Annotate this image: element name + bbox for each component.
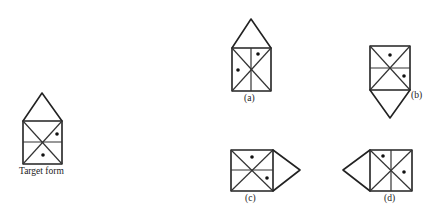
option-b-label: (b) (411, 90, 422, 100)
figure-canvas (0, 0, 441, 214)
dot-icon (402, 170, 406, 174)
dot-icon (250, 155, 254, 159)
triangle-up-icon (23, 93, 62, 121)
dot-icon (41, 153, 45, 157)
option-d-shape[interactable] (343, 150, 412, 191)
target-form-label: Target form (19, 166, 64, 176)
triangle-up-icon (232, 19, 271, 48)
triangle-left-icon (343, 150, 370, 191)
dot-icon (236, 68, 240, 72)
dot-icon (388, 53, 392, 57)
option-c-shape[interactable] (231, 150, 300, 191)
dot-icon (55, 132, 59, 136)
option-b-shape[interactable] (370, 46, 410, 118)
dot-icon (265, 176, 269, 180)
option-a-shape[interactable] (232, 19, 271, 91)
dot-icon (381, 154, 385, 158)
dot-icon (256, 52, 260, 56)
triangle-down-icon (370, 90, 410, 118)
option-c-label: (c) (245, 193, 256, 203)
target-form-shape (23, 93, 62, 164)
triangle-right-icon (273, 150, 300, 191)
option-a-label: (a) (244, 93, 255, 103)
dot-icon (402, 74, 406, 78)
option-d-label: (d) (384, 193, 395, 203)
